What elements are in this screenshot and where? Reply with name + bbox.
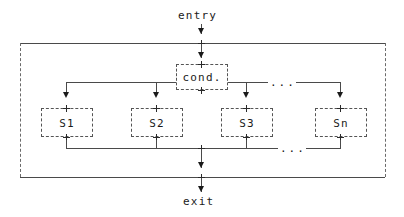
fanout-bus-right-inner (228, 82, 268, 83)
exit-arrowhead-upper-icon (198, 162, 204, 168)
outer-region-left-border (20, 43, 21, 177)
cond-node-top-tick (198, 61, 205, 68)
cond-node-label: cond. (177, 71, 227, 84)
merge-edge-s2 (156, 140, 157, 148)
branch-node-s1-label: S1 (42, 116, 92, 129)
outer-region-right-border (385, 43, 386, 177)
branch-node-s1[interactable]: S1 (41, 108, 93, 137)
branch-arrowhead-s1-icon (63, 92, 69, 98)
merge-bus-left (66, 148, 278, 149)
branch-arrowhead-s2-icon (153, 92, 159, 98)
fanout-ellipsis: ... (270, 78, 296, 88)
branch-node-sn-top-tick (337, 105, 344, 112)
branch-node-s2[interactable]: S2 (131, 108, 183, 137)
branch-node-s1-top-tick (63, 105, 70, 112)
branch-node-sn[interactable]: Sn (315, 108, 367, 137)
branch-node-s3-label: S3 (222, 116, 272, 129)
entry-arrowhead-icon (198, 28, 204, 34)
exit-arrowhead-lower-icon (198, 186, 204, 192)
control-flow-diagram: entry cond. ... S1 S2 S3 (0, 0, 404, 217)
branch-node-sn-label: Sn (316, 116, 366, 129)
merge-edge-sn (340, 140, 341, 148)
cond-arrowhead-icon (198, 52, 204, 58)
branch-arrowhead-s3-icon (243, 92, 249, 98)
cond-node-bottom-tick (198, 87, 205, 94)
merge-ellipsis: ... (280, 144, 306, 154)
merge-bus-right (306, 148, 341, 149)
merge-edge-s1 (66, 140, 67, 148)
branch-arrowhead-sn-icon (337, 92, 343, 98)
entry-label: entry (178, 10, 217, 22)
branch-node-s3[interactable]: S3 (221, 108, 273, 137)
branch-node-s2-top-tick (153, 105, 160, 112)
merge-edge-s3 (246, 140, 247, 148)
branch-node-s3-top-tick (243, 105, 250, 112)
branch-node-s2-label: S2 (132, 116, 182, 129)
fanout-bus-left (66, 82, 176, 83)
fanout-bus-right-outer (296, 82, 340, 83)
exit-label: exit (183, 196, 214, 208)
